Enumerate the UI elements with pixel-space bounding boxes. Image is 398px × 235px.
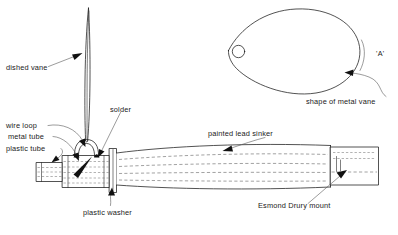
painted-lead-sinker-shape xyxy=(117,144,331,189)
label-metal-tube: metal tube xyxy=(8,132,44,141)
section-marker-leader xyxy=(360,40,364,71)
leader-wire-loop xyxy=(48,125,86,147)
plastic-tube-shape xyxy=(37,163,63,182)
label-dished-vane: dished vane xyxy=(6,63,48,72)
label-esmond-drury-mount: Esmond Drury mount xyxy=(258,201,331,210)
leader-shape-of-metal-vane xyxy=(345,70,387,97)
dished-vane-shape xyxy=(85,8,90,142)
label-painted-lead-sinker: painted lead sinker xyxy=(208,129,273,138)
label-plastic-washer: plastic washer xyxy=(83,208,132,217)
label-wire-loop: wire loop xyxy=(5,121,37,130)
metal-vane-outline xyxy=(228,9,359,94)
plastic-washer-shape xyxy=(110,149,117,193)
diagram-canvas: dished vane solder wire loop metal tube … xyxy=(0,0,398,235)
leader-dished-vane xyxy=(49,53,83,67)
leader-plastic-tube xyxy=(52,149,63,163)
label-plastic-tube: plastic tube xyxy=(6,144,45,153)
technical-diagram: dished vane solder wire loop metal tube … xyxy=(0,0,398,235)
label-solder: solder xyxy=(110,105,131,114)
label-section-marker-a: 'A' xyxy=(376,49,385,58)
vane-pivot-hole xyxy=(232,45,244,57)
label-shape-of-metal-vane: shape of metal vane xyxy=(306,97,375,106)
esmond-drury-mount-shape xyxy=(331,147,379,185)
metal-tube-shape xyxy=(63,156,110,188)
